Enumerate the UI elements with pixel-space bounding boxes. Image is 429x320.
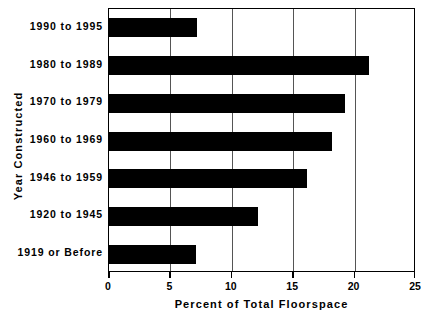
- y-axis-tick-labels: 1990 to 19951980 to 19891970 to 19791960…: [0, 8, 103, 272]
- y-axis-tick-label: 1920 to 1945: [0, 209, 103, 220]
- bar: [109, 207, 258, 226]
- x-axis-tick-label: 10: [225, 280, 237, 292]
- bar: [109, 94, 345, 113]
- bar: [109, 132, 332, 151]
- x-axis-tick-mark: [354, 272, 356, 278]
- x-axis-tick-mark: [108, 272, 110, 278]
- x-axis-tick-marks: [108, 272, 415, 280]
- bar-chart-figure: Year Constructed 1990 to 19951980 to 198…: [0, 0, 429, 320]
- bar: [109, 169, 307, 188]
- bar: [109, 18, 197, 37]
- bar: [109, 245, 196, 264]
- y-axis-tick-label: 1990 to 1995: [0, 21, 103, 32]
- y-axis-tick-label: 1919 or Before: [0, 247, 103, 258]
- x-axis-tick-label: 25: [409, 280, 421, 292]
- x-axis-tick-mark: [414, 272, 416, 278]
- x-axis-tick-label: 5: [166, 280, 172, 292]
- y-axis-tick-label: 1980 to 1989: [0, 59, 103, 70]
- x-axis-tick-mark: [169, 272, 171, 278]
- x-axis-tick-label: 20: [348, 280, 360, 292]
- y-axis-tick-label: 1970 to 1979: [0, 96, 103, 107]
- x-axis-tick-mark: [231, 272, 233, 278]
- y-axis-tick-label: 1960 to 1969: [0, 134, 103, 145]
- x-axis-tick-label: 0: [105, 280, 111, 292]
- x-axis-tick-label: 15: [286, 280, 298, 292]
- y-axis-tick-label: 1946 to 1959: [0, 172, 103, 183]
- plot-area: [108, 8, 415, 272]
- x-axis-tick-labels: 0510152025: [108, 280, 415, 294]
- x-axis-tick-mark: [292, 272, 294, 278]
- x-axis-title: Percent of Total Floorspace: [108, 298, 415, 310]
- bar: [109, 56, 369, 75]
- gridline-x-20: [355, 9, 356, 271]
